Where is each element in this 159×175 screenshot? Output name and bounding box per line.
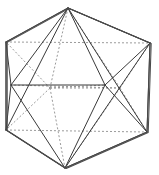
icosahedron-wireframe [0,0,159,175]
figure-canvas [0,0,159,175]
